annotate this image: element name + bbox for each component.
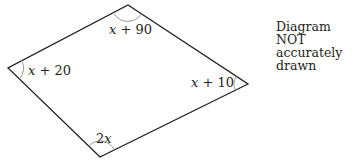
angle-label-top: x + 90	[109, 22, 152, 37]
angle-arc-left	[20, 60, 24, 80]
accuracy-note-line-1: Diagram NOT	[276, 20, 354, 46]
accuracy-note-line-2: accurately drawn	[276, 46, 354, 72]
angle-label-left: x + 20	[28, 63, 71, 78]
angle-arc-right	[234, 76, 236, 90]
angle-label-bottom: 2x	[96, 131, 112, 146]
angle-arc-top	[114, 14, 141, 22]
accuracy-note: Diagram NOT accurately drawn	[276, 20, 354, 72]
angle-label-right: x + 10	[191, 75, 234, 90]
